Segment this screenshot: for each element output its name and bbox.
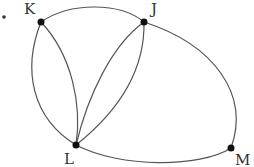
edge-k-l-outer <box>32 22 76 145</box>
edge-j-l-inner <box>76 22 144 145</box>
edge-k-j <box>41 7 144 22</box>
label-j: J <box>149 0 157 18</box>
edge-k-l-inner <box>41 22 78 145</box>
vertex-k <box>38 19 45 26</box>
label-l: L <box>64 150 74 167</box>
edge-l-m <box>76 145 231 163</box>
vertex-j <box>141 19 148 26</box>
graph-diagram: K J L M <box>0 0 254 167</box>
bullet-dot <box>2 15 6 19</box>
vertex-l <box>73 142 80 149</box>
edge-j-m <box>144 22 236 148</box>
label-m: M <box>235 151 250 167</box>
vertex-m <box>228 145 235 152</box>
label-k: K <box>24 0 36 18</box>
edge-j-l-outer <box>76 22 144 145</box>
